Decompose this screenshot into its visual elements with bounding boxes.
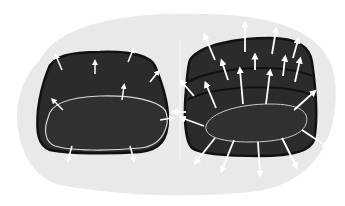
illustration-svg — [0, 0, 345, 206]
illustration — [0, 0, 345, 206]
left-cushion — [37, 50, 172, 160]
